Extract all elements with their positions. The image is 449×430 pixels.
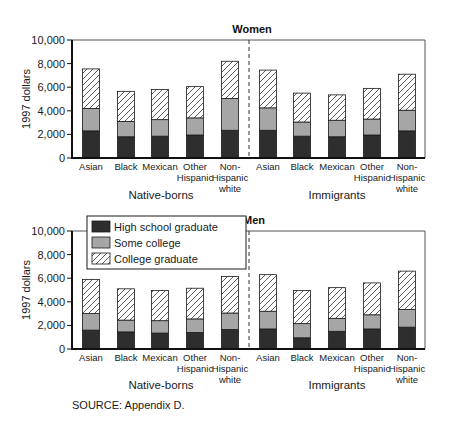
bar-high-school xyxy=(364,329,381,349)
legend-swatch-high-school xyxy=(92,221,110,232)
bar-high-school xyxy=(329,137,346,158)
bar-high-school xyxy=(260,329,277,349)
bar-some-college xyxy=(294,324,311,338)
bar-college-graduate xyxy=(294,93,311,122)
women-chart: Women 1997 dollars 02,0004,0006,0008,000… xyxy=(20,23,425,201)
bar-some-college xyxy=(152,321,169,333)
bar-high-school xyxy=(329,331,346,349)
y-tick-label: 10,000 xyxy=(31,34,65,46)
bar-college-graduate xyxy=(187,288,204,319)
bar-college-graduate xyxy=(187,87,204,118)
bar-some-college xyxy=(187,118,204,135)
bar-college-graduate xyxy=(329,288,346,319)
men-chart: Men 1997 dollars 02,0004,0006,0008,00010… xyxy=(20,214,425,391)
x-tick-label: Mexican xyxy=(142,161,177,172)
group-label-immigrants: Immigrants xyxy=(309,189,366,201)
x-tick-label: OtherHispanic xyxy=(354,161,391,183)
x-tick-label: Non-Hispanicwhite xyxy=(212,352,249,385)
bar-high-school xyxy=(260,130,277,158)
bar-college-graduate xyxy=(222,61,239,98)
y-tick-label: 4,000 xyxy=(37,296,65,308)
legend: High school graduate Some college Colleg… xyxy=(87,216,246,269)
legend-label-high-school: High school graduate xyxy=(114,221,218,233)
bar-some-college xyxy=(294,122,311,136)
x-tick-label: OtherHispanic xyxy=(354,352,391,374)
bar-high-school xyxy=(399,131,416,158)
bar-some-college xyxy=(260,311,277,329)
bar-some-college xyxy=(118,320,135,332)
x-tick-label: Black xyxy=(290,161,313,172)
x-tick-label: Black xyxy=(114,352,137,363)
bar-high-school xyxy=(222,130,239,158)
bar-college-graduate xyxy=(118,91,135,121)
bar-high-school xyxy=(83,330,100,349)
bar-college-graduate xyxy=(399,271,416,309)
bar-some-college xyxy=(118,121,135,136)
bar-college-graduate xyxy=(364,283,381,315)
y-tick-label: 0 xyxy=(59,343,65,355)
x-tick-label: Mexican xyxy=(319,161,354,172)
x-tick-label: Non-Hispanicwhite xyxy=(389,352,426,385)
bar-some-college xyxy=(364,315,381,329)
y-tick-label: 10,000 xyxy=(31,225,65,237)
bar-some-college xyxy=(260,108,277,130)
x-tick-label: Asian xyxy=(79,161,103,172)
x-tick-label: Mexican xyxy=(142,352,177,363)
bar-some-college xyxy=(329,318,346,331)
x-tick-label: Black xyxy=(290,352,313,363)
y-tick-label: 8,000 xyxy=(37,58,65,70)
bar-some-college xyxy=(364,119,381,135)
bar-high-school xyxy=(187,135,204,158)
y-ticks: 02,0004,0006,0008,00010,000 xyxy=(31,225,72,355)
y-tick-label: 2,000 xyxy=(37,319,65,331)
bar-college-graduate xyxy=(118,289,135,320)
bar-college-graduate xyxy=(260,70,277,108)
bar-high-school xyxy=(294,338,311,349)
legend-swatch-college-graduate xyxy=(92,253,110,264)
x-tick-label: Non-Hispanicwhite xyxy=(212,161,249,194)
bar-college-graduate xyxy=(364,88,381,119)
y-tick-label: 6,000 xyxy=(37,81,65,93)
bar-high-school xyxy=(364,135,381,158)
bar-college-graduate xyxy=(222,276,239,313)
bar-high-school xyxy=(187,332,204,349)
x-tick-label: OtherHispanic xyxy=(177,161,214,183)
bar-college-graduate xyxy=(329,95,346,120)
bar-college-graduate xyxy=(260,275,277,312)
bar-some-college xyxy=(329,120,346,137)
bar-high-school xyxy=(152,333,169,349)
bar-high-school xyxy=(83,131,100,158)
bar-some-college xyxy=(222,313,239,330)
legend-swatch-some-college xyxy=(92,237,110,248)
bar-college-graduate xyxy=(294,291,311,324)
bar-some-college xyxy=(222,98,239,130)
x-tick-label: Asian xyxy=(256,161,280,172)
bar-high-school xyxy=(118,137,135,158)
y-tick-label: 8,000 xyxy=(37,249,65,261)
y-ticks: 02,0004,0006,0008,00010,000 xyxy=(31,34,72,164)
y-tick-label: 2,000 xyxy=(37,128,65,140)
group-label-native-borns: Native-borns xyxy=(128,379,193,391)
bar-some-college xyxy=(399,309,416,327)
figure: Women 1997 dollars 02,0004,0006,0008,000… xyxy=(0,0,449,430)
x-tick-label: Non-Hispanicwhite xyxy=(389,161,426,194)
bar-some-college xyxy=(83,314,100,331)
bar-some-college xyxy=(187,319,204,333)
legend-label-college-graduate: College graduate xyxy=(114,253,198,265)
legend-label-some-college: Some college xyxy=(114,237,181,249)
bar-college-graduate xyxy=(83,279,100,313)
bar-college-graduate xyxy=(83,69,100,109)
y-tick-label: 0 xyxy=(59,152,65,164)
y-axis-label: 1997 dollars xyxy=(20,69,32,129)
bar-high-school xyxy=(222,330,239,349)
bar-some-college xyxy=(399,110,416,131)
x-tick-label: Black xyxy=(114,161,137,172)
bar-college-graduate xyxy=(152,291,169,321)
x-tick-label: Asian xyxy=(79,352,103,363)
bar-high-school xyxy=(399,327,416,349)
y-tick-label: 6,000 xyxy=(37,272,65,284)
y-tick-label: 4,000 xyxy=(37,105,65,117)
x-tick-label: OtherHispanic xyxy=(177,352,214,374)
group-label-native-borns: Native-borns xyxy=(128,189,193,201)
group-label-immigrants: Immigrants xyxy=(309,379,366,391)
